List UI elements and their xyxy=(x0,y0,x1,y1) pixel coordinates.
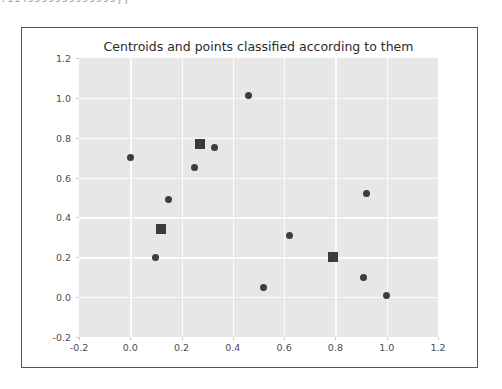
x-tick-label: -0.2 xyxy=(70,342,89,353)
gridline-horizontal xyxy=(79,257,438,258)
y-tick-label: 0.8 xyxy=(56,132,71,143)
data-point-marker xyxy=(191,164,198,171)
gridline-vertical xyxy=(335,58,336,337)
scatter-plot-area: -0.20.00.20.40.60.81.01.2 -0.20.00.20.40… xyxy=(79,58,438,337)
y-tick-label: 1.0 xyxy=(56,92,71,103)
x-tick-label: 0.0 xyxy=(123,342,138,353)
centroid-marker xyxy=(328,252,338,262)
y-tick-label: 0.6 xyxy=(56,172,71,183)
x-tick-mark xyxy=(182,337,183,340)
y-tick-mark xyxy=(76,257,79,258)
y-tick-mark xyxy=(76,337,79,338)
y-tick-mark xyxy=(76,58,79,59)
data-point-marker xyxy=(152,254,159,261)
chart-title: Centroids and points classified accordin… xyxy=(79,39,438,54)
x-tick-mark xyxy=(233,337,234,340)
x-tick-label: 0.2 xyxy=(174,342,189,353)
y-tick-label: 0.0 xyxy=(56,292,71,303)
y-tick-label: 1.2 xyxy=(56,53,71,64)
y-tick-label: -0.2 xyxy=(52,332,71,343)
data-point-marker xyxy=(165,196,172,203)
data-point-marker xyxy=(383,292,390,299)
data-point-marker xyxy=(127,154,134,161)
x-tick-mark xyxy=(438,337,439,340)
gridline-vertical xyxy=(130,58,131,337)
x-tick-label: 0.4 xyxy=(225,342,240,353)
centroid-marker xyxy=(195,139,205,149)
y-tick-mark xyxy=(76,98,79,99)
figure-frame: Centroids and points classified accordin… xyxy=(21,27,478,368)
x-tick-mark xyxy=(387,337,388,340)
gridline-vertical xyxy=(233,58,234,337)
x-tick-label: 1.0 xyxy=(379,342,394,353)
x-tick-mark xyxy=(284,337,285,340)
data-point-marker xyxy=(360,274,367,281)
x-tick-label: 1.2 xyxy=(430,342,445,353)
x-tick-label: 0.8 xyxy=(328,342,343,353)
y-tick-label: 0.4 xyxy=(56,212,71,223)
y-tick-mark xyxy=(76,138,79,139)
centroid-marker xyxy=(156,224,166,234)
gridline-horizontal xyxy=(79,178,438,179)
console-output-sliver: .1149999999999999]] xyxy=(0,0,200,6)
y-tick-mark xyxy=(76,297,79,298)
y-tick-label: 0.2 xyxy=(56,252,71,263)
data-point-marker xyxy=(286,232,293,239)
x-tick-label: 0.6 xyxy=(277,342,292,353)
gridline-horizontal xyxy=(79,138,438,139)
data-point-marker xyxy=(363,190,370,197)
x-tick-mark xyxy=(79,337,80,340)
data-point-marker xyxy=(260,284,267,291)
gridline-horizontal xyxy=(79,217,438,218)
gridline-vertical xyxy=(182,58,183,337)
y-tick-mark xyxy=(76,178,79,179)
y-tick-mark xyxy=(76,217,79,218)
gridline-horizontal xyxy=(79,98,438,99)
x-tick-mark xyxy=(130,337,131,340)
gridline-vertical xyxy=(284,58,285,337)
data-point-marker xyxy=(211,144,218,151)
x-tick-mark xyxy=(335,337,336,340)
